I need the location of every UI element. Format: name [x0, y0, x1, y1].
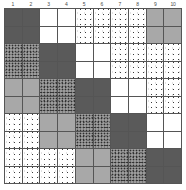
matrix-cell-r7-c7 — [111, 114, 128, 131]
matrix-cell-r4-c5 — [76, 62, 93, 79]
matrix-cell-r9-c8 — [129, 149, 146, 166]
matrix-cell-r1-c6 — [94, 9, 111, 26]
column-label-7: 7 — [111, 0, 129, 8]
column-label-row: 12345678910 — [4, 0, 182, 8]
matrix-cell-r6-c6 — [94, 97, 111, 114]
matrix-cell-r1-c9 — [147, 9, 164, 26]
matrix-cell-r7-c1 — [5, 114, 22, 131]
matrix-cell-r2-c4 — [58, 27, 75, 44]
matrix-cell-r10-c1 — [5, 167, 22, 184]
matrix-cell-r10-c9 — [147, 167, 164, 184]
matrix-cell-r5-c10 — [164, 79, 181, 96]
matrix-cell-r10-c7 — [111, 167, 128, 184]
matrix-cell-r8-c9 — [147, 132, 164, 149]
matrix-cell-r9-c6 — [94, 149, 111, 166]
matrix-cell-r2-c5 — [76, 27, 93, 44]
matrix-cell-r6-c10 — [164, 97, 181, 114]
matrix-cell-r7-c3 — [40, 114, 57, 131]
matrix-cell-r6-c4 — [58, 97, 75, 114]
matrix-cell-r7-c5 — [76, 114, 93, 131]
matrix-cell-r10-c6 — [94, 167, 111, 184]
matrix-cell-r4-c6 — [94, 62, 111, 79]
matrix-cell-r9-c7 — [111, 149, 128, 166]
column-label-4: 4 — [57, 0, 75, 8]
matrix-cell-r5-c6 — [94, 79, 111, 96]
matrix-cell-r7-c8 — [129, 114, 146, 131]
matrix-cell-r8-c5 — [76, 132, 93, 149]
matrix-cell-r6-c2 — [23, 97, 40, 114]
matrix-cell-r3-c5 — [76, 44, 93, 61]
column-label-9: 9 — [146, 0, 164, 8]
column-label-3: 3 — [40, 0, 58, 8]
matrix-cell-r9-c2 — [23, 149, 40, 166]
matrix-cell-r6-c1 — [5, 97, 22, 114]
matrix-cell-r9-c1 — [5, 149, 22, 166]
matrix-cell-r8-c3 — [40, 132, 57, 149]
matrix-cell-r2-c3 — [40, 27, 57, 44]
matrix-cell-r8-c4 — [58, 132, 75, 149]
column-label-5: 5 — [75, 0, 93, 8]
matrix-cell-r5-c5 — [76, 79, 93, 96]
matrix-cell-r3-c4 — [58, 44, 75, 61]
matrix-cell-r1-c4 — [58, 9, 75, 26]
matrix-cell-r9-c9 — [147, 149, 164, 166]
matrix-cell-r2-c8 — [129, 27, 146, 44]
matrix-cell-r6-c7 — [111, 97, 128, 114]
matrix-cell-r9-c3 — [40, 149, 57, 166]
matrix-cell-r7-c10 — [164, 114, 181, 131]
matrix-cell-r3-c9 — [147, 44, 164, 61]
matrix-cell-r10-c4 — [58, 167, 75, 184]
matrix-cell-r4-c8 — [129, 62, 146, 79]
matrix-grid — [4, 8, 182, 184]
matrix-cell-r10-c5 — [76, 167, 93, 184]
column-label-6: 6 — [93, 0, 111, 8]
matrix-cell-r5-c2 — [23, 79, 40, 96]
matrix-cell-r4-c3 — [40, 62, 57, 79]
matrix-cell-r3-c8 — [129, 44, 146, 61]
matrix-cell-r1-c10 — [164, 9, 181, 26]
matrix-figure: 12345678910 — [0, 0, 186, 190]
matrix-cell-r3-c1 — [5, 44, 22, 61]
matrix-cell-r7-c9 — [147, 114, 164, 131]
matrix-cell-r1-c1 — [5, 9, 22, 26]
matrix-cell-r1-c5 — [76, 9, 93, 26]
matrix-cell-r2-c1 — [5, 27, 22, 44]
column-label-2: 2 — [22, 0, 40, 8]
matrix-cell-r4-c2 — [23, 62, 40, 79]
matrix-cell-r8-c7 — [111, 132, 128, 149]
matrix-cell-r2-c10 — [164, 27, 181, 44]
matrix-cell-r1-c8 — [129, 9, 146, 26]
matrix-cell-r4-c10 — [164, 62, 181, 79]
matrix-cell-r3-c2 — [23, 44, 40, 61]
matrix-cell-r6-c9 — [147, 97, 164, 114]
matrix-cell-r10-c10 — [164, 167, 181, 184]
column-label-1: 1 — [4, 0, 22, 8]
matrix-cell-r5-c4 — [58, 79, 75, 96]
matrix-cell-r4-c7 — [111, 62, 128, 79]
matrix-cell-r8-c10 — [164, 132, 181, 149]
matrix-cell-r5-c8 — [129, 79, 146, 96]
matrix-cell-r8-c8 — [129, 132, 146, 149]
matrix-cell-r2-c7 — [111, 27, 128, 44]
matrix-cell-r9-c5 — [76, 149, 93, 166]
column-label-10: 10 — [164, 0, 182, 8]
matrix-cell-r7-c6 — [94, 114, 111, 131]
matrix-cell-r10-c3 — [40, 167, 57, 184]
matrix-cell-r7-c4 — [58, 114, 75, 131]
matrix-cell-r6-c3 — [40, 97, 57, 114]
matrix-cell-r3-c10 — [164, 44, 181, 61]
matrix-cell-r8-c2 — [23, 132, 40, 149]
matrix-cell-r9-c4 — [58, 149, 75, 166]
matrix-cell-r8-c1 — [5, 132, 22, 149]
matrix-cell-r3-c6 — [94, 44, 111, 61]
matrix-cell-r1-c7 — [111, 9, 128, 26]
matrix-cell-r1-c3 — [40, 9, 57, 26]
matrix-cell-r4-c4 — [58, 62, 75, 79]
matrix-cell-r2-c2 — [23, 27, 40, 44]
matrix-cell-r8-c6 — [94, 132, 111, 149]
matrix-cell-r5-c7 — [111, 79, 128, 96]
matrix-cell-r5-c3 — [40, 79, 57, 96]
matrix-cell-r6-c8 — [129, 97, 146, 114]
matrix-cell-r7-c2 — [23, 114, 40, 131]
matrix-cell-r9-c10 — [164, 149, 181, 166]
